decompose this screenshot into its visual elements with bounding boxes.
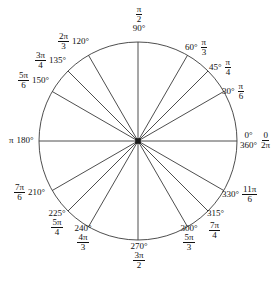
label-225: 225° 5π 4 [44,209,70,237]
center-point [135,138,141,144]
radian-fraction-5pi-6: 5π 6 [18,71,29,90]
radian-fraction-5pi-4: 5π 4 [51,218,62,237]
label-60: 60° π 3 [185,38,207,57]
radian-fraction-pi-4: π 4 [225,58,232,77]
degree-text-150: 150° [32,76,49,85]
degree-stack-0-360: 0° 360° [240,131,257,150]
degree-text-135: 135° [49,56,66,65]
degree-text-315: 315° [207,208,224,218]
fraction-denominator: 4 [37,61,44,70]
degree-text-90: 90° [133,24,146,33]
label-210: 7π 6 210° [14,183,45,202]
degree-text-60: 60° [185,43,198,52]
label-0-360: 0° 360° 0 2π [240,131,271,150]
radian-fraction-5pi-3: 5π 3 [183,233,194,252]
label-90: π 2 90° [126,5,152,33]
fraction-denominator: 4 [225,68,232,77]
label-180: π 180° [9,136,34,145]
fraction-denominator: 6 [20,81,27,90]
label-240: 240° 4π 3 [70,224,96,252]
radian-fraction-pi-6: π 6 [238,82,245,101]
radian-fraction-3pi-2: 3π 2 [133,251,144,270]
fraction-denominator: 6 [246,195,253,204]
fraction-denominator: 4 [54,228,61,237]
radian-fraction-0-2pi: 0 2π [260,131,271,150]
label-30: 30° π 6 [222,82,244,101]
fraction-denominator: 3 [186,243,193,252]
radian-fraction-3pi-4: 3π 4 [35,51,46,70]
radian-fraction-4pi-3: 4π 3 [77,233,88,252]
unit-circle-diagram: π 2 90° 60° π 3 45° π 4 30° π 6 0° 360° [0,0,280,288]
label-45: 45° π 4 [209,58,231,77]
degree-text-210: 210° [28,188,45,197]
label-315: 315° [207,209,224,218]
label-300: 300° 5π 3 [176,224,202,252]
degree-text-30: 30° [222,87,235,96]
radian-fraction-pi-3: π 3 [201,38,208,57]
degree-text-330: 330° [222,190,239,199]
fraction-denominator: 4 [211,231,218,240]
radian-fraction-11pi-6: 11π 6 [242,185,257,204]
label-270: 270° 3π 2 [125,242,153,270]
fraction-denominator: 6 [16,193,23,202]
degree-text-360: 360° [240,141,257,150]
label-135: 3π 4 135° [35,51,66,70]
fraction-denominator: 2π [260,141,271,150]
fraction-denominator: 3 [201,48,208,57]
fraction-denominator: 3 [80,243,87,252]
fraction-denominator: 3 [60,42,67,51]
radian-fraction-7pi-6: 7π 6 [14,183,25,202]
degree-text-45: 45° [209,63,222,72]
radian-fraction-2pi-3: 2π 3 [58,32,69,51]
label-330: 330° 11π 6 [222,185,257,204]
label-120: 2π 3 120° [58,32,89,51]
radian-fraction-7pi-4: 7π 4 [209,221,220,240]
radian-fraction-pi-2: π 2 [136,5,143,24]
degree-text-180: 180° [17,136,34,145]
label-150: 5π 6 150° [18,71,49,90]
radian-text-pi: π [9,136,14,145]
fraction-denominator: 2 [136,261,143,270]
degree-text-120: 120° [72,37,89,46]
label-315-radian: 7π 4 [209,221,220,240]
fraction-denominator: 6 [238,92,245,101]
